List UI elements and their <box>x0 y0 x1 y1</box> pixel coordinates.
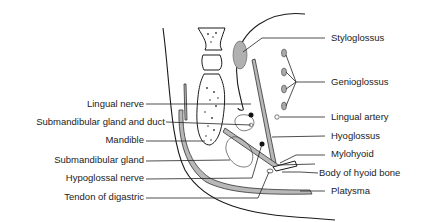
label-platysma: Platysma <box>331 185 371 196</box>
mandible-lower-segment <box>197 74 225 145</box>
lingual-band <box>184 84 187 120</box>
label-styloglossus: Styloglossus <box>331 32 385 43</box>
label-tendon-of-digastric: Tendon of digastric <box>64 191 144 202</box>
lingual-artery-ring <box>275 115 279 119</box>
digastric-tendon <box>267 169 273 173</box>
label-hyoglossus: Hyoglossus <box>331 130 380 141</box>
mandible-middle-segment <box>202 55 222 70</box>
label-lingual-artery: Lingual artery <box>331 111 389 122</box>
label-hypoglossal-nerve: Hypoglossal nerve <box>66 172 144 183</box>
left-labels: Lingual nerve Submandibular gland and du… <box>36 98 165 202</box>
label-submandibular-gland: Submandibular gland <box>54 154 144 165</box>
hyoid-bone <box>273 161 297 171</box>
mandible-upper-segment <box>198 28 225 50</box>
right-labels: Styloglossus Genioglossus Lingual artery… <box>319 32 400 196</box>
lingual-nerve-dot <box>249 113 254 118</box>
pharynx-outline <box>237 13 305 110</box>
anatomy-diagram: Lingual nerve Submandibular gland and du… <box>0 0 425 222</box>
label-mandible: Mandible <box>105 134 144 145</box>
styloglossus-shape <box>233 41 247 69</box>
genioglossus-ovals <box>282 49 287 110</box>
label-body-of-hyoid-bone: Body of hyoid bone <box>319 167 400 178</box>
label-lingual-nerve: Lingual nerve <box>87 98 144 109</box>
label-genioglossus: Genioglossus <box>331 76 389 87</box>
label-submandibular-gland-and-duct: Submandibular gland and duct <box>36 116 165 127</box>
hyoglossus-band <box>252 59 276 164</box>
label-mylohyoid: Mylohyoid <box>331 148 374 159</box>
